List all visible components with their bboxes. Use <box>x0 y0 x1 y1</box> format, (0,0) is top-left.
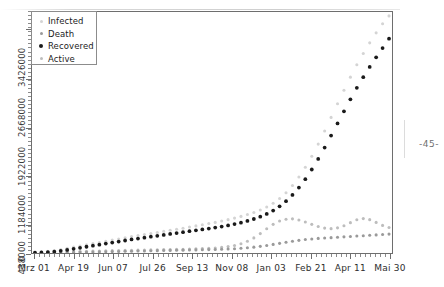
x-tick-minor <box>163 254 164 257</box>
data-point <box>239 247 242 250</box>
chart-page: -45- 04380001184000192200026680003426000… <box>0 0 444 287</box>
y-axis: 04380001184000192200026680003426000 <box>0 11 31 254</box>
data-point <box>259 232 262 235</box>
x-tick-minor <box>212 254 213 257</box>
x-tick-minor <box>98 254 99 257</box>
data-point <box>220 248 223 251</box>
data-point <box>291 193 295 197</box>
data-point <box>317 237 320 240</box>
data-point <box>162 230 165 233</box>
data-point <box>149 232 152 235</box>
top-divider <box>0 9 400 10</box>
x-tick-minor <box>316 254 317 257</box>
data-point <box>374 55 378 59</box>
data-point <box>355 235 358 238</box>
data-point <box>265 227 268 230</box>
data-point <box>168 232 172 236</box>
x-tick-minor <box>44 254 45 257</box>
data-point <box>200 228 204 232</box>
x-tick-label: Jun 07 <box>98 263 128 273</box>
x-tick-minor <box>197 254 198 257</box>
data-point <box>342 89 345 92</box>
legend-item-infected[interactable]: Infected <box>36 15 92 27</box>
x-tick-minor <box>257 254 258 257</box>
data-point <box>330 116 333 119</box>
x-tick-label: Mai 30 <box>374 263 405 273</box>
legend-marker-icon <box>36 44 46 48</box>
x-tick-minor <box>88 254 89 257</box>
data-point <box>155 234 159 238</box>
data-point <box>169 249 172 252</box>
x-tick-minor <box>148 254 149 257</box>
x-tick-minor <box>346 254 347 257</box>
data-point <box>355 218 358 221</box>
data-point <box>246 246 249 249</box>
data-point <box>233 244 236 247</box>
data-point <box>136 237 140 241</box>
data-point <box>194 224 197 227</box>
legend-item-death[interactable]: Death <box>36 28 92 40</box>
data-point <box>349 221 352 224</box>
data-point <box>284 191 287 194</box>
data-point <box>207 248 210 251</box>
data-point <box>362 52 365 55</box>
data-point <box>368 41 371 44</box>
x-tick-minor <box>128 254 129 257</box>
x-tick-minor <box>103 254 104 257</box>
data-point <box>368 234 371 237</box>
data-point <box>387 233 390 236</box>
x-tick-label: Mrz 01 <box>18 263 50 273</box>
data-point <box>130 250 133 253</box>
series-recovered <box>33 37 391 253</box>
data-point <box>97 243 101 247</box>
x-tick-label: Apr 19 <box>58 263 89 273</box>
data-point <box>227 247 230 250</box>
data-point <box>368 218 371 221</box>
x-tick-minor <box>108 254 109 257</box>
data-point <box>265 244 268 247</box>
data-point <box>362 217 365 220</box>
x-tick-minor <box>93 254 94 257</box>
x-tick-label: Jan 03 <box>257 263 286 273</box>
x-tick-minor <box>360 254 361 257</box>
data-point <box>162 233 166 237</box>
data-point <box>336 236 339 239</box>
data-point <box>291 184 294 187</box>
data-point <box>342 235 345 238</box>
x-tick-label: Feb 21 <box>295 263 326 273</box>
x-tick-label: Jul 26 <box>140 263 166 273</box>
data-point <box>278 242 281 245</box>
data-point <box>323 146 327 150</box>
data-point <box>265 212 269 216</box>
data-point <box>259 208 262 211</box>
data-point <box>149 235 153 239</box>
data-point <box>110 241 114 245</box>
data-point <box>85 245 89 249</box>
data-point <box>387 14 390 17</box>
data-point <box>336 122 340 126</box>
x-tick-minor <box>321 254 322 257</box>
data-point <box>252 211 255 214</box>
x-tick-minor <box>138 254 139 257</box>
data-point <box>258 215 262 219</box>
data-point <box>329 134 333 138</box>
x-tick-minor <box>83 254 84 257</box>
x-tick-minor <box>222 254 223 257</box>
x-tick-minor <box>118 254 119 257</box>
x-tick-minor <box>380 254 381 257</box>
x-tick-minor <box>242 254 243 257</box>
x-tick-minor <box>168 254 169 257</box>
x-tick-label: Sep 13 <box>176 263 208 273</box>
data-point <box>310 237 313 240</box>
legend-item-active[interactable]: Active <box>36 53 92 65</box>
x-tick-major <box>153 254 154 259</box>
legend-item-recovered[interactable]: Recovered <box>36 40 92 52</box>
data-point <box>381 233 384 236</box>
x-tick-minor <box>123 254 124 257</box>
y-tick-label: 2668000 <box>17 97 27 136</box>
x-tick-minor <box>49 254 50 257</box>
data-point <box>213 226 217 230</box>
x-tick-label: Apr 11 <box>335 263 366 273</box>
data-point <box>65 248 69 252</box>
data-point <box>278 204 282 208</box>
